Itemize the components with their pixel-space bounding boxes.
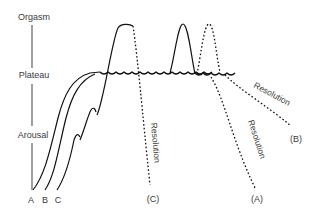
stage-label-orgasm: Orgasm — [18, 12, 50, 22]
curve-end-label-c: (C) — [147, 194, 160, 204]
curve-start-label-a: A — [28, 195, 34, 205]
stage-label-plateau: Plateau — [19, 70, 50, 80]
sexual-response-cycle-diagram: Orgasm Plateau Arousal — [0, 0, 317, 217]
curve-end-label-a: (A) — [251, 194, 263, 204]
curve-start-label-c: C — [55, 195, 62, 205]
curve-end-label-b: (B) — [290, 134, 302, 144]
curve-a-orgasm-peak — [170, 24, 195, 74]
curve-a-resolution — [211, 77, 255, 188]
stage-label-arousal: Arousal — [18, 130, 49, 140]
curve-c-arousal-step-3 — [97, 24, 133, 115]
diagram-canvas: Orgasm Plateau Arousal — [0, 0, 317, 217]
curve-start-label-b: B — [42, 195, 48, 205]
resolution-label-c: Resolution — [149, 122, 162, 163]
curve-c-arousal-step-2 — [80, 108, 96, 140]
resolution-label-a: Resolution — [246, 119, 268, 161]
curve-c-resolution — [133, 26, 150, 185]
resolution-label-b: Resolution — [252, 80, 292, 108]
curve-b-arousal — [45, 74, 95, 190]
curve-a-dotted-peak — [197, 24, 220, 74]
